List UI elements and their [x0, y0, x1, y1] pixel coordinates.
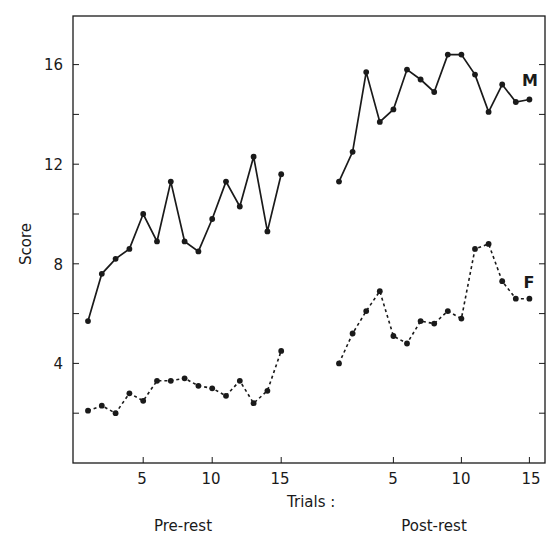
data-point	[527, 296, 533, 302]
data-point	[445, 308, 451, 314]
data-point	[363, 69, 369, 75]
data-point	[251, 154, 257, 160]
x-tick-label-pre-5: 5	[137, 470, 147, 488]
data-point	[404, 341, 410, 347]
x-tick-label-pre-10: 10	[201, 470, 220, 488]
panel-label-pre-rest: Pre-rest	[154, 517, 212, 535]
data-point	[265, 229, 271, 235]
panel-label-post-rest: Post-rest	[401, 517, 467, 535]
data-point	[472, 246, 478, 252]
data-point	[350, 149, 356, 155]
data-point	[168, 378, 174, 384]
x-tick-label-post-10: 10	[451, 470, 470, 488]
data-point	[350, 331, 356, 337]
data-point	[499, 82, 505, 88]
data-point	[196, 383, 202, 389]
data-point	[168, 179, 174, 185]
x-tick-label-post-5: 5	[388, 470, 398, 488]
data-point	[486, 109, 492, 115]
data-point	[418, 318, 424, 324]
data-point	[126, 390, 132, 396]
data-point	[363, 308, 369, 314]
y-axis-ticks	[73, 65, 545, 414]
data-point	[445, 52, 451, 58]
data-point	[140, 398, 146, 404]
plot-frame	[73, 16, 545, 463]
data-point	[126, 246, 132, 252]
data-point	[404, 67, 410, 73]
data-point	[154, 378, 160, 384]
y-tick-label-4: 4	[53, 355, 63, 373]
data-point	[209, 385, 215, 391]
line-chart: 16 12 8 4 Score 5 10 15 5 10 15 Trials :…	[0, 0, 559, 541]
x-axis-title: Trials :	[286, 493, 335, 511]
x-axis-ticks	[143, 457, 529, 463]
y-tick-label-8: 8	[53, 256, 63, 274]
data-point	[391, 333, 397, 339]
data-point	[209, 216, 215, 222]
data-point	[418, 77, 424, 83]
data-point	[251, 400, 257, 406]
data-point	[113, 256, 119, 262]
data-point	[140, 211, 146, 217]
data-point	[459, 316, 465, 322]
data-point	[336, 179, 342, 185]
data-point	[237, 378, 243, 384]
series-m-pre-rest	[85, 154, 284, 324]
data-point	[499, 278, 505, 284]
data-point	[154, 239, 160, 245]
data-point	[182, 375, 188, 381]
data-point	[486, 241, 492, 247]
data-point	[99, 271, 105, 277]
data-point	[265, 388, 271, 394]
series-layer	[85, 52, 532, 416]
data-point	[85, 318, 91, 324]
data-point	[113, 410, 119, 416]
series-line	[339, 244, 529, 364]
data-point	[223, 393, 229, 399]
data-point	[278, 348, 284, 354]
series-f-post-rest	[336, 241, 532, 366]
data-point	[237, 204, 243, 210]
data-point	[85, 408, 91, 414]
data-point	[278, 171, 284, 177]
y-tick-label-16: 16	[44, 56, 63, 74]
x-tick-label-pre-15: 15	[270, 470, 289, 488]
data-point	[182, 239, 188, 245]
data-point	[99, 403, 105, 409]
data-point	[472, 72, 478, 78]
x-tick-label-post-15: 15	[521, 470, 540, 488]
data-point	[391, 107, 397, 113]
data-point	[513, 296, 519, 302]
data-point	[459, 52, 465, 58]
y-axis-title: Score	[17, 223, 35, 265]
data-point	[196, 249, 202, 255]
series-m-post-rest	[336, 52, 532, 185]
series-label-m: M	[522, 71, 538, 90]
series-f-pre-rest	[85, 348, 284, 416]
chart-canvas: 16 12 8 4 Score 5 10 15 5 10 15 Trials :…	[0, 0, 559, 541]
data-point	[431, 321, 437, 327]
data-point	[377, 119, 383, 125]
data-point	[377, 288, 383, 294]
data-point	[223, 179, 229, 185]
series-label-f: F	[524, 273, 535, 292]
data-point	[527, 97, 533, 103]
y-tick-label-12: 12	[44, 156, 63, 174]
data-point	[431, 89, 437, 95]
data-point	[513, 99, 519, 105]
data-point	[336, 361, 342, 367]
